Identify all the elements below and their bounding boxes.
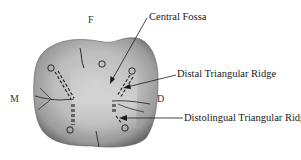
distal-orientation-label: D bbox=[157, 94, 164, 104]
tooth-diagram: F M D Central Fossa Distal Triangular Ri… bbox=[0, 0, 301, 160]
distolingual-triangular-ridge-label: Distolingual Triangular Ridge bbox=[184, 113, 301, 124]
distal-triangular-ridge-label: Distal Triangular Ridge bbox=[177, 69, 276, 80]
mesial-orientation-label: M bbox=[10, 94, 19, 104]
facial-orientation-label: F bbox=[88, 15, 94, 25]
central-fossa-label: Central Fossa bbox=[149, 12, 206, 23]
tooth-illustration bbox=[0, 0, 301, 160]
